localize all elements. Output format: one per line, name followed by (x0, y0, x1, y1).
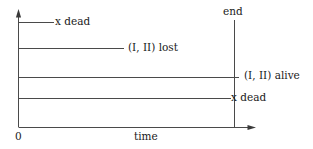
lifeline-3-label: (I, II) alive (244, 70, 300, 81)
origin-label: 0 (15, 131, 22, 142)
time-axis-label: time (134, 131, 158, 142)
end-marker-label: end (223, 6, 243, 17)
timeline-figure: x dead (I, II) lost (I, II) alive x dead… (0, 0, 313, 149)
lifeline-1-label: x dead (55, 16, 90, 27)
lifeline-4-label: x dead (231, 92, 266, 103)
vertical-axis (16, 9, 21, 127)
lifeline-2-label: (I, II) lost (128, 42, 178, 53)
